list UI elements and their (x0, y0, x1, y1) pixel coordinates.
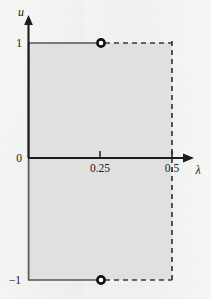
x-tick-label-0.25: 0.25 (90, 162, 110, 174)
open-circle-upper (97, 39, 104, 46)
y-axis-label: u (18, 5, 24, 19)
x-tick-label-0.5: 0.5 (165, 162, 180, 174)
y-tick-label-minus-1: −1 (9, 274, 21, 286)
x-axis-arrowhead (183, 153, 194, 162)
y-tick-label-1: 1 (16, 37, 22, 49)
figure-container: u λ 1 0 −1 0.25 0.5 (0, 0, 211, 299)
y-tick-label-0: 0 (16, 152, 22, 164)
x-axis-label: λ (194, 163, 200, 177)
y-axis-arrowhead (24, 15, 33, 25)
bifurcation-diagram-plot: u λ 1 0 −1 0.25 0.5 (0, 0, 211, 299)
open-circle-lower (97, 276, 104, 283)
